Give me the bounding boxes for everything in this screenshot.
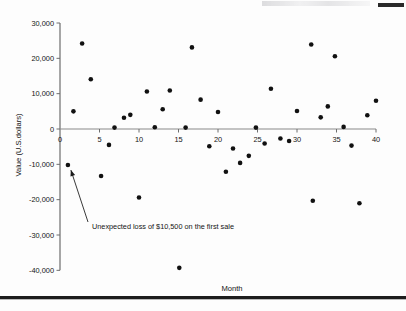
- page-canvas: 30,00020,00010,0000-10,000-20,000-30,000…: [0, 0, 406, 311]
- data-point: [145, 89, 150, 94]
- scatter-chart: 30,00020,00010,0000-10,000-20,000-30,000…: [0, 0, 406, 296]
- y-axis-tick-label: 20,000: [31, 54, 54, 63]
- data-point: [269, 86, 274, 91]
- annotation-label: Unexpected loss of $10,500 on the first …: [92, 222, 234, 231]
- data-point: [71, 109, 76, 114]
- data-point: [238, 161, 243, 166]
- data-point: [349, 143, 354, 148]
- x-axis: 0510152025303540: [58, 129, 380, 144]
- data-point: [231, 146, 236, 151]
- data-point: [295, 109, 300, 114]
- y-axis-title: Value (U.S.dollars): [14, 113, 23, 177]
- chart-svg: 30,00020,00010,0000-10,000-20,000-30,000…: [0, 0, 406, 296]
- data-point: [137, 195, 142, 200]
- x-axis-tick-label: 20: [214, 135, 222, 144]
- data-point: [357, 201, 362, 206]
- y-axis-tick-label: 10,000: [31, 89, 54, 98]
- x-axis-title: Month: [221, 284, 242, 293]
- data-point: [99, 174, 104, 179]
- data-point: [128, 113, 133, 118]
- data-point: [66, 163, 71, 168]
- data-point: [287, 139, 292, 144]
- x-axis-tick-label: 15: [174, 135, 182, 144]
- x-axis-tick-label: 30: [293, 135, 301, 144]
- data-point: [311, 198, 316, 203]
- data-point: [107, 143, 112, 148]
- data-point: [160, 107, 165, 112]
- x-axis-tick-label: 5: [97, 135, 101, 144]
- data-point: [318, 115, 323, 120]
- y-axis-tick-label: 0: [50, 125, 54, 134]
- data-point: [122, 115, 127, 120]
- annotation-arrow-line: [71, 170, 88, 222]
- data-point: [374, 98, 379, 103]
- data-points: [66, 41, 379, 270]
- data-point: [262, 141, 267, 146]
- data-point: [254, 125, 259, 130]
- data-point: [341, 125, 346, 130]
- data-point: [278, 136, 283, 141]
- data-point: [153, 125, 158, 130]
- y-axis-tick-label: -30,000: [29, 231, 54, 240]
- data-point: [177, 266, 182, 271]
- data-point: [309, 42, 314, 47]
- x-axis-tick-label: 25: [253, 135, 261, 144]
- data-point: [365, 113, 370, 118]
- data-point: [333, 54, 338, 59]
- data-point: [80, 41, 85, 46]
- data-point: [183, 125, 188, 130]
- data-point: [190, 45, 195, 50]
- data-point: [89, 77, 94, 82]
- x-axis-tick-label: 10: [135, 135, 143, 144]
- x-axis-tick-label: 40: [372, 135, 380, 144]
- data-point: [207, 144, 212, 149]
- x-axis-tick-label: 35: [332, 135, 340, 144]
- y-axis-tick-label: -10,000: [29, 160, 54, 169]
- x-axis-tick-label: 0: [58, 135, 62, 144]
- data-point: [198, 97, 203, 102]
- data-point: [112, 125, 117, 130]
- data-point: [224, 169, 229, 174]
- y-axis-tick-label: -20,000: [29, 195, 54, 204]
- annotation-arrow-head: [71, 170, 76, 176]
- chart-annotation: Unexpected loss of $10,500 on the first …: [71, 170, 234, 231]
- y-axis-tick-label: 30,000: [31, 19, 54, 28]
- data-point: [247, 154, 252, 159]
- data-point: [326, 104, 331, 109]
- y-axis-tick-label: -40,000: [29, 266, 54, 275]
- data-point: [216, 110, 221, 115]
- page-bottom-rule-shadow: [0, 299, 406, 300]
- y-axis: 30,00020,00010,0000-10,000-20,000-30,000…: [29, 19, 60, 275]
- data-point: [168, 88, 173, 93]
